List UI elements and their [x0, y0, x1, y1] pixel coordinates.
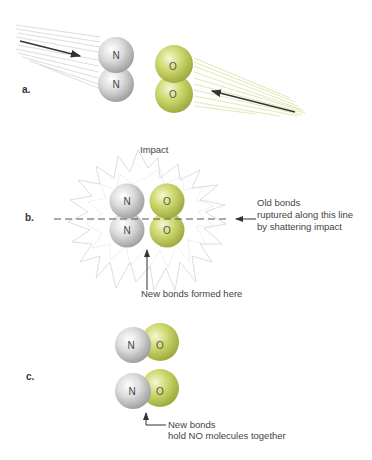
old-bonds-caption-line-2: ruptured along this line [257, 209, 353, 221]
new-bonds-caption-line-2: hold NO molecules together [168, 430, 286, 442]
reaction-figure: N N O O N N [0, 0, 372, 460]
new-bonds-formed-caption: New bonds formed here [141, 288, 242, 300]
o2-molecule: O O [150, 184, 185, 248]
old-bonds-caption-line-1: Old bonds [257, 197, 300, 209]
atom-label: O [169, 89, 177, 100]
panel-label-b: b. [25, 212, 34, 223]
panel-label-a: a. [22, 84, 30, 95]
n2-molecule: N N [110, 184, 145, 248]
panel-b: N N O O [54, 150, 256, 290]
atom-label: N [123, 225, 130, 236]
n2-molecule: N N [98, 37, 134, 102]
panel-label-c: c. [26, 371, 34, 382]
atom-label: O [169, 61, 177, 72]
no-molecule: N O [115, 323, 179, 363]
atom-label: O [163, 196, 171, 207]
panel-c: N O N O [115, 323, 179, 425]
panel-a: N N O O [16, 25, 305, 116]
atom-label: N [123, 196, 130, 207]
atom-label: N [112, 79, 119, 90]
atom-label: N [127, 340, 134, 351]
o2-molecule: O O [155, 45, 193, 113]
impact-label: Impact [140, 144, 169, 156]
old-bonds-caption-line-3: by shattering impact [257, 221, 342, 233]
no-molecule: N O [115, 369, 179, 409]
atom-label: O [163, 225, 171, 236]
new-bonds-caption-line-1: New bonds [168, 419, 216, 431]
atom-label: N [112, 50, 119, 61]
o2-motion-lines [194, 58, 305, 116]
atom-label: N [128, 386, 135, 397]
n2-motion-lines [16, 25, 100, 88]
no-bond-pointer-arrow [146, 413, 166, 425]
atom-label: O [156, 386, 164, 397]
atom-label: O [156, 340, 164, 351]
